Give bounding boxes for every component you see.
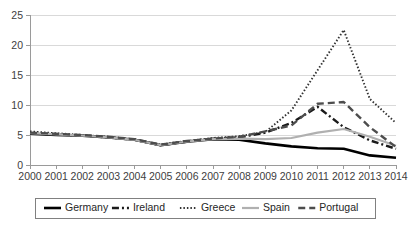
legend-label: Ireland <box>133 201 165 213</box>
y-tick-label: 10 <box>11 99 23 111</box>
x-tick-label: 2002 <box>71 170 95 182</box>
line-chart: 0510152025 20002001200220032004200520062… <box>0 0 410 227</box>
x-axis-tick-labels: 2000200120022003200420052006200720082009… <box>18 170 408 182</box>
x-tick-label: 2009 <box>254 170 278 182</box>
data-series <box>30 30 396 158</box>
y-tick-label: 25 <box>11 9 23 21</box>
x-tick-label: 2011 <box>306 170 329 182</box>
series-line-greece <box>30 30 396 145</box>
x-tick-label: 2006 <box>175 170 199 182</box>
x-tick-label: 2003 <box>97 170 121 182</box>
legend-label: Portugal <box>319 201 358 213</box>
x-tick-label: 2004 <box>123 170 147 182</box>
y-tick-label: 5 <box>17 129 23 141</box>
x-tick-label: 2010 <box>280 170 304 182</box>
y-tick-label: 15 <box>11 69 23 81</box>
y-tick-label: 20 <box>11 39 23 51</box>
axes <box>26 15 396 169</box>
y-tick-label: 0 <box>17 159 23 171</box>
x-tick-label: 2007 <box>201 170 225 182</box>
gridlines <box>30 15 396 165</box>
chart-canvas: 0510152025 20002001200220032004200520062… <box>0 0 410 227</box>
x-tick-label: 2000 <box>18 170 42 182</box>
x-tick-label: 2013 <box>358 170 382 182</box>
series-line-ireland <box>30 107 396 149</box>
y-axis-tick-labels: 0510152025 <box>11 9 23 171</box>
legend-label: Germany <box>65 201 109 213</box>
x-tick-label: 2012 <box>332 170 356 182</box>
chart-legend: GermanyIrelandGreeceSpainPortugal <box>35 198 375 218</box>
x-tick-label: 2014 <box>384 170 408 182</box>
x-tick-label: 2001 <box>44 170 68 182</box>
x-tick-label: 2005 <box>149 170 173 182</box>
legend-label: Greece <box>201 201 236 213</box>
legend-label: Spain <box>263 201 290 213</box>
x-tick-label: 2008 <box>227 170 251 182</box>
